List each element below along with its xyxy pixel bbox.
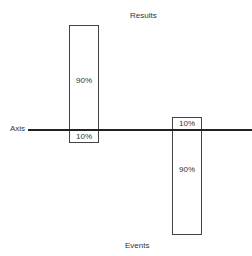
axis-label: Axis bbox=[10, 124, 25, 133]
right-bar: 10% 90% bbox=[172, 117, 202, 235]
right-bar-below-label: 90% bbox=[173, 165, 201, 174]
diagram-title: Results bbox=[130, 11, 157, 20]
diagram-footer: Events bbox=[125, 241, 149, 250]
axis-line bbox=[28, 129, 252, 131]
left-bar-below-label: 10% bbox=[70, 132, 98, 141]
right-bar-above-label: 10% bbox=[173, 119, 201, 128]
left-bar: 90% 10% bbox=[69, 25, 99, 143]
left-bar-above-label: 90% bbox=[70, 76, 98, 85]
